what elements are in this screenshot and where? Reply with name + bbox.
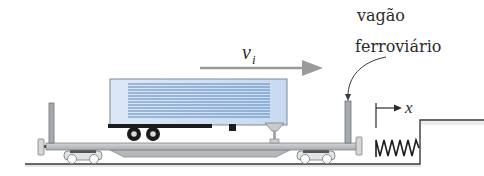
x-axis-marker: x — [376, 98, 413, 128]
underbelly — [110, 150, 290, 157]
pointer-leader — [348, 57, 386, 96]
wheel-icon — [146, 127, 160, 141]
arrowhead-icon — [302, 60, 323, 76]
left-stanchion — [49, 103, 54, 143]
deck — [46, 143, 358, 150]
landing-gear — [265, 123, 284, 143]
spring-icon — [376, 140, 419, 157]
right-stanchion — [345, 101, 351, 143]
arrowhead-icon — [394, 105, 402, 112]
right-coupler — [356, 137, 362, 155]
trailer-frame — [108, 124, 212, 128]
arrowhead-icon — [345, 94, 351, 101]
x-axis-label: x — [404, 98, 413, 117]
railcar-label-line2: ferroviário — [355, 37, 441, 56]
right-truck — [297, 150, 335, 164]
semi-trailer — [108, 79, 287, 143]
diagram-canvas: x vi vagão ferroviário — [0, 0, 484, 176]
left-coupler — [38, 139, 44, 155]
trailer-block — [229, 124, 236, 131]
left-truck — [64, 150, 102, 164]
velocity-arrow: vi — [200, 41, 323, 76]
wheel-icon — [127, 127, 141, 141]
railcar-label-line1: vagão — [356, 6, 405, 25]
velocity-label: vi — [242, 41, 256, 67]
